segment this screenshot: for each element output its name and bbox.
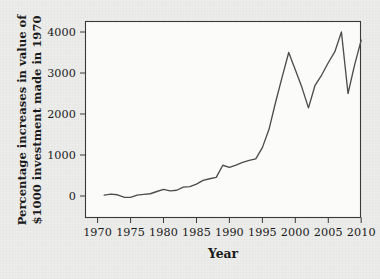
x-tick-label-2010: 2010 [347, 226, 376, 239]
x-tick-label-1985: 1985 [182, 226, 211, 239]
x-tick-label-1970: 1970 [83, 226, 112, 239]
y-axis-title-line1: Percentage increases in value of [15, 14, 29, 226]
x-axis-title: Year [207, 246, 239, 261]
figure-page: 0 1000 2000 3000 4000 1970 [0, 0, 380, 279]
y-axis-tick-labels: 0 1000 2000 3000 4000 [47, 26, 76, 203]
y-tick-label-2000: 2000 [47, 108, 76, 121]
x-tick-label-1990: 1990 [215, 226, 244, 239]
y-tick-label-1000: 1000 [47, 149, 76, 162]
x-tick-label-1980: 1980 [149, 226, 178, 239]
chart-svg: 0 1000 2000 3000 4000 1970 [0, 0, 380, 279]
y-axis-title-line2: $1000 investment made in 1970 [30, 15, 44, 224]
x-tick-label-1975: 1975 [116, 226, 145, 239]
x-tick-label-2000: 2000 [281, 226, 310, 239]
y-tick-label-3000: 3000 [47, 67, 76, 80]
y-axis-ticks [80, 32, 86, 196]
y-tick-label-0: 0 [69, 190, 76, 203]
x-axis-tick-labels: 1970 1975 1980 1985 1990 1995 2000 2005 … [83, 226, 375, 239]
plot-frame [86, 22, 361, 218]
x-tick-label-2005: 2005 [314, 226, 343, 239]
y-tick-label-4000: 4000 [47, 26, 76, 39]
chart-figure: 0 1000 2000 3000 4000 1970 [0, 0, 380, 279]
x-axis-ticks [98, 218, 362, 224]
x-tick-label-1995: 1995 [248, 226, 277, 239]
